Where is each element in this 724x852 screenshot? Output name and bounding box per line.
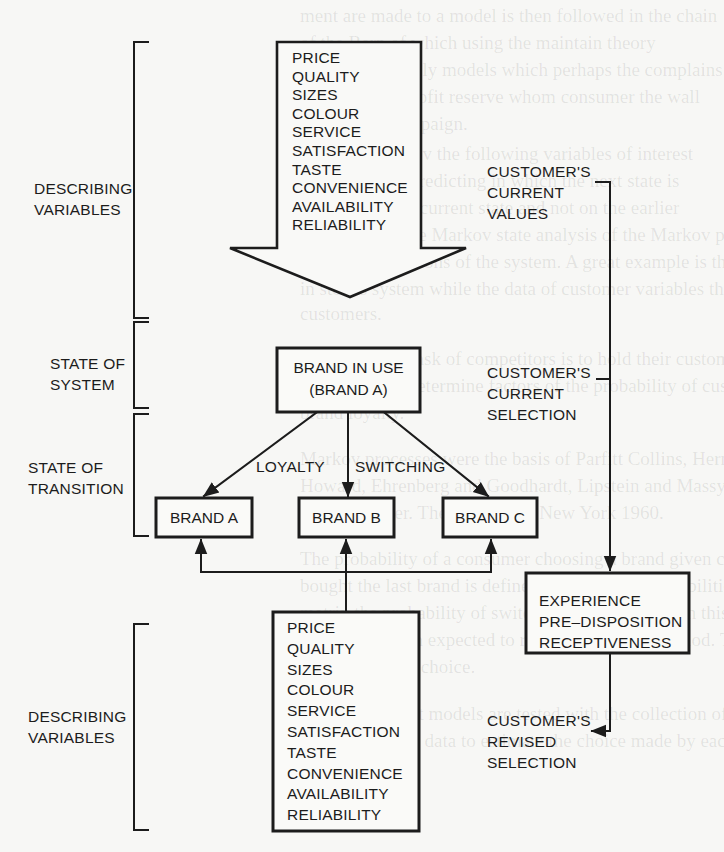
variable-item: SATISFACTION [292, 142, 408, 161]
label-line: STATE OF [28, 457, 124, 478]
label-describing-variables-bottom: DESCRIBING VARIABLES [28, 706, 126, 748]
variable-item: AVAILABILITY [287, 784, 403, 805]
variable-item: SERVICE [292, 123, 408, 142]
variable-item: CONVENIENCE [287, 764, 403, 785]
bracket-state-of-transition [134, 414, 148, 536]
brand-b-label: BRAND B [299, 507, 394, 529]
label-line: SELECTION [487, 752, 591, 773]
label-line: DESCRIBING [34, 178, 132, 199]
label-describing-variables-top: DESCRIBING VARIABLES [34, 178, 132, 220]
label-line: VARIABLES [28, 727, 126, 748]
brand-in-use-label: BRAND IN USE (BRAND A) [277, 357, 420, 401]
label-line: TRANSITION [28, 478, 124, 499]
label-customers-current-selection: CUSTOMER'S CURRENT SELECTION [487, 362, 591, 425]
variable-item: QUALITY [292, 68, 408, 87]
label-line: (BRAND A) [277, 379, 420, 401]
variable-item: SATISFACTION [287, 722, 403, 743]
label-line: SELECTION [487, 404, 591, 425]
experience-box-label: EXPERIENCE PRE–DISPOSITION RECEPTIVENESS [539, 590, 682, 653]
label-line: VARIABLES [34, 199, 132, 220]
variable-item: SIZES [292, 86, 408, 105]
loyalty-label: LOYALTY [256, 456, 325, 477]
variable-item: CONVENIENCE [292, 179, 408, 198]
brand-c-label: BRAND C [443, 507, 537, 529]
label-line: CURRENT [487, 383, 591, 404]
label-line: STATE OF [50, 353, 125, 374]
label-line: CURRENT [487, 182, 591, 203]
label-line: SYSTEM [50, 374, 125, 395]
label-line: CUSTOMER'S [487, 710, 591, 731]
bracket-describing-bottom [134, 624, 148, 830]
variable-item: PRICE [287, 618, 403, 639]
label-line: DESCRIBING [28, 706, 126, 727]
variable-item: RELIABILITY [287, 805, 403, 826]
bottom-variables-list: PRICE QUALITY SIZES COLOUR SERVICE SATIS… [287, 618, 403, 826]
label-line: RECEPTIVENESS [539, 632, 682, 653]
switching-label: SWITCHING [355, 456, 446, 477]
variable-item: PRICE [292, 49, 408, 68]
brand-a-label: BRAND A [156, 507, 252, 529]
variable-item: AVAILABILITY [292, 198, 408, 217]
top-variables-list: PRICE QUALITY SIZES COLOUR SERVICE SATIS… [292, 49, 408, 235]
variable-item: TASTE [287, 743, 403, 764]
label-customers-current-values: CUSTOMER'S CURRENT VALUES [487, 161, 591, 224]
variable-item: SERVICE [287, 701, 403, 722]
variable-item: TASTE [292, 161, 408, 180]
label-line: REVISED [487, 731, 591, 752]
label-line: VALUES [487, 203, 591, 224]
label-line: BRAND IN USE [277, 357, 420, 379]
label-line: CUSTOMER'S [487, 362, 591, 383]
variable-item: COLOUR [287, 680, 403, 701]
label-line: PRE–DISPOSITION [539, 611, 682, 632]
label-state-of-system: STATE OF SYSTEM [50, 353, 125, 395]
variable-item: SIZES [287, 660, 403, 681]
label-state-of-transition: STATE OF TRANSITION [28, 457, 124, 499]
variable-item: COLOUR [292, 105, 408, 124]
label-customers-revised-selection: CUSTOMER'S REVISED SELECTION [487, 710, 591, 773]
bracket-describing-top [134, 42, 148, 318]
variable-item: RELIABILITY [292, 216, 408, 235]
label-line: CUSTOMER'S [487, 161, 591, 182]
label-line: EXPERIENCE [539, 590, 682, 611]
bracket-state-of-system [134, 322, 148, 408]
variable-item: QUALITY [287, 639, 403, 660]
